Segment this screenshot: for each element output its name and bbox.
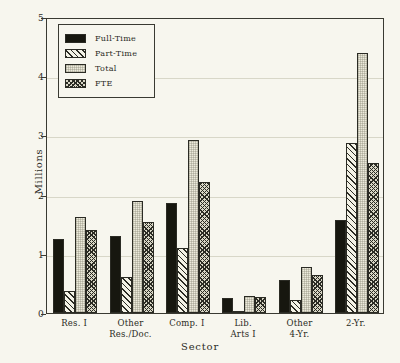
legend-item: Part-Time: [65, 46, 149, 61]
bar: [233, 311, 244, 313]
legend-label: Part-Time: [95, 49, 137, 58]
y-tick-label: 2: [4, 191, 44, 201]
bar: [335, 220, 346, 313]
y-tick-label: 3: [4, 131, 44, 141]
bar: [166, 203, 177, 313]
gridline: [47, 197, 383, 198]
bar: [53, 239, 64, 313]
bar: [177, 248, 188, 313]
y-tick-label: 4: [4, 72, 44, 82]
y-tick-label: 5: [4, 13, 44, 23]
legend-label: Full-Time: [95, 34, 136, 43]
bar: [64, 291, 75, 313]
bar: [75, 217, 86, 313]
chart-page: Millions Sector 012345 Res. IOtherRes./D…: [0, 0, 400, 363]
bar: [110, 236, 121, 313]
y-tick-label: 1: [4, 250, 44, 260]
legend: Full-TimePart-TimeTotalFTE: [58, 24, 155, 98]
bar: [86, 230, 97, 313]
gridline: [47, 137, 383, 138]
bar: [199, 182, 210, 313]
gridline: [47, 256, 383, 257]
legend-item: FTE: [65, 76, 149, 91]
bar: [346, 143, 357, 313]
bar: [121, 277, 132, 313]
bar: [255, 297, 266, 313]
bar: [312, 275, 323, 313]
bar: [368, 163, 379, 313]
legend-swatch: [65, 64, 86, 73]
bar: [143, 222, 154, 313]
y-tick-mark: [41, 314, 46, 315]
y-axis-label: Millions: [33, 112, 44, 232]
bar: [301, 267, 312, 313]
legend-swatch: [65, 79, 86, 88]
legend-item: Total: [65, 61, 149, 76]
legend-swatch: [65, 49, 86, 58]
legend-label: Total: [95, 64, 117, 73]
bar: [222, 298, 233, 313]
bar: [290, 300, 301, 313]
legend-item: Full-Time: [65, 31, 149, 46]
bar: [132, 201, 143, 313]
bar: [244, 296, 255, 313]
x-tick-label: 2-Yr.: [316, 318, 396, 329]
legend-label: FTE: [95, 79, 113, 88]
legend-swatch: [65, 34, 86, 43]
bar: [279, 280, 290, 313]
bar: [188, 140, 199, 313]
bar: [357, 53, 368, 313]
x-axis-label: Sector: [0, 341, 400, 352]
